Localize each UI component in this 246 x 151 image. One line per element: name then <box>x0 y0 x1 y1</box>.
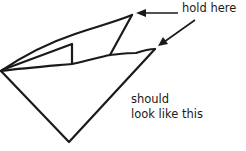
should-label-line1: should <box>131 92 203 107</box>
should-look-like-this-label: should look like this <box>131 92 203 122</box>
hold-here-label: hold here <box>182 1 236 16</box>
arrowhead-top-peak <box>136 9 146 17</box>
arrow-to-right-tip <box>164 20 195 42</box>
arrowhead-right-tip <box>158 37 168 46</box>
folded-paper-diagram <box>0 0 246 151</box>
should-label-line2: look like this <box>131 107 203 122</box>
middle-fold-line <box>1 49 155 71</box>
